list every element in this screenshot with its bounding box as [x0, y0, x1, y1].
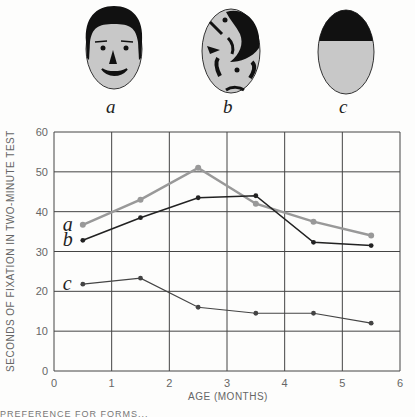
- data-point: [196, 305, 201, 310]
- y-tick-label: 30: [36, 246, 48, 258]
- data-point: [369, 321, 374, 326]
- axis-ticks: 01020304050600123456: [36, 126, 403, 389]
- data-point: [80, 238, 85, 243]
- truncated-caption: PREFERENCE FOR FORMS...: [0, 409, 149, 417]
- data-point: [253, 201, 259, 207]
- x-tick-label: 1: [109, 377, 115, 389]
- data-point: [368, 233, 374, 239]
- x-tick-label: 3: [224, 377, 230, 389]
- series-lines: abc: [63, 165, 374, 326]
- series-c: c: [63, 272, 374, 325]
- data-point: [80, 222, 86, 228]
- series-label-b: b: [63, 228, 73, 250]
- y-tick-label: 60: [36, 126, 48, 138]
- y-tick-label: 20: [36, 285, 48, 297]
- x-tick-label: 0: [51, 377, 57, 389]
- y-tick-label: 50: [36, 166, 48, 178]
- series-label-c: c: [63, 272, 72, 294]
- data-point: [196, 195, 201, 200]
- data-point: [138, 276, 143, 281]
- x-tick-label: 2: [166, 377, 172, 389]
- y-tick-label: 40: [36, 206, 48, 218]
- data-point: [253, 311, 258, 316]
- data-point: [195, 165, 201, 171]
- x-axis-title: AGE (MONTHS): [188, 391, 268, 402]
- series-a: a: [63, 165, 374, 239]
- data-point: [138, 197, 144, 203]
- data-point: [311, 219, 317, 225]
- data-point: [311, 311, 316, 316]
- data-point: [138, 215, 143, 220]
- x-tick-label: 4: [282, 377, 288, 389]
- chart-grid: [54, 132, 400, 371]
- y-tick-label: 0: [42, 365, 48, 377]
- x-tick-label: 6: [397, 377, 403, 389]
- data-point: [253, 193, 258, 198]
- y-tick-label: 10: [36, 325, 48, 337]
- data-point: [369, 243, 374, 248]
- fixation-chart: 01020304050600123456 AGE (MONTHS) SECOND…: [0, 0, 415, 417]
- data-point: [80, 282, 85, 287]
- x-tick-label: 5: [339, 377, 345, 389]
- data-point: [311, 240, 316, 245]
- series-b: b: [63, 193, 374, 250]
- y-axis-title: SECONDS OF FIXATION IN TWO-MINUTE TEST: [5, 130, 16, 372]
